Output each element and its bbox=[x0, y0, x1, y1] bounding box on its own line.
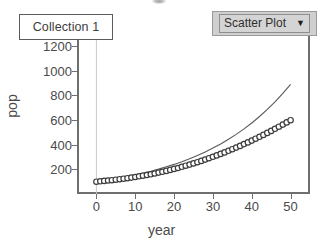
x-tick-label: 20 bbox=[167, 199, 181, 214]
plot-type-dropdown[interactable]: Scatter Plot ▼ bbox=[212, 11, 317, 36]
chevron-down-icon: ▼ bbox=[293, 15, 305, 32]
y-tick-mark bbox=[72, 120, 77, 121]
plot-type-dropdown-inner[interactable]: Scatter Plot ▼ bbox=[219, 14, 310, 33]
y-tick-label: 1000 bbox=[43, 63, 72, 78]
x-tick-mark bbox=[96, 194, 97, 199]
x-axis-label: year bbox=[0, 222, 323, 238]
x-tick-mark bbox=[291, 194, 292, 199]
collection-name-box[interactable]: Collection 1 bbox=[19, 14, 113, 40]
y-tick-label: 600 bbox=[50, 112, 72, 127]
observed-pop-markers bbox=[94, 118, 294, 185]
y-tick-label: 1200 bbox=[43, 38, 72, 53]
y-tick-label: 200 bbox=[50, 162, 72, 177]
y-tick-label: 800 bbox=[50, 88, 72, 103]
y-tick-label: 400 bbox=[50, 137, 72, 152]
x-tick-label: 0 bbox=[93, 199, 100, 214]
data-point-marker[interactable] bbox=[288, 118, 293, 123]
collection-name-label: Collection 1 bbox=[33, 20, 100, 34]
x-tick-label: 10 bbox=[128, 199, 142, 214]
x-tick-mark bbox=[135, 194, 136, 199]
y-axis-label: pop bbox=[4, 94, 20, 117]
y-tick-mark bbox=[72, 95, 77, 96]
x-tick-mark bbox=[174, 194, 175, 199]
x-tick-mark bbox=[252, 194, 253, 199]
y-tick-mark bbox=[72, 46, 77, 47]
y-tick-mark bbox=[72, 169, 77, 170]
x-tick-label: 30 bbox=[206, 199, 220, 214]
scatter-plot-window: Collection 1 Scatter Plot ▼ 200400600800… bbox=[0, 0, 323, 248]
y-tick-mark bbox=[72, 145, 77, 146]
x-tick-mark bbox=[213, 194, 214, 199]
x-tick-label: 40 bbox=[245, 199, 259, 214]
y-tick-mark bbox=[72, 71, 77, 72]
x-axis-ticks: 01020304050 bbox=[0, 199, 323, 219]
plot-type-label: Scatter Plot bbox=[224, 15, 286, 32]
x-tick-label: 50 bbox=[283, 199, 297, 214]
